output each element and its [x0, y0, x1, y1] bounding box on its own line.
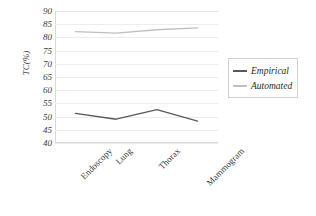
- legend-swatch-icon: [233, 85, 247, 87]
- y-axis-tick-labels: 9085807570656055504540: [14, 11, 52, 143]
- y-tick-label-70: 70: [43, 59, 52, 69]
- y-tick-label-50: 50: [43, 112, 52, 122]
- y-tick-label-65: 65: [43, 72, 52, 82]
- legend-swatch-icon: [233, 70, 247, 72]
- legend-label: Empirical: [251, 66, 289, 76]
- series-line-empirical: [75, 110, 197, 121]
- x-tick-label-lung: Lung: [114, 146, 135, 167]
- y-tick-label-55: 55: [43, 98, 52, 108]
- chart-legend: EmpiricalAutomated: [228, 58, 298, 98]
- series-lines: [55, 11, 218, 143]
- y-tick-label-40: 40: [43, 138, 52, 148]
- legend-item-automated[interactable]: Automated: [233, 78, 292, 93]
- y-tick-label-85: 85: [43, 19, 52, 29]
- x-axis-tick-labels: EndoscopyLungThoraxMammogram: [55, 146, 218, 212]
- legend-item-empirical[interactable]: Empirical: [233, 63, 292, 78]
- legend-label: Automated: [251, 81, 292, 91]
- y-tick-label-90: 90: [43, 6, 52, 16]
- x-tick-label-endoscopy: Endoscopy: [79, 146, 114, 181]
- chart-container: TC(%) 9085807570656055504540 EndoscopyLu…: [0, 0, 316, 216]
- y-tick-label-75: 75: [43, 46, 52, 56]
- x-tick-label-thorax: Thorax: [156, 146, 181, 171]
- y-tick-label-45: 45: [43, 125, 52, 135]
- y-tick-label-60: 60: [43, 85, 52, 95]
- series-line-automated: [75, 28, 197, 33]
- plot-area: [55, 11, 218, 143]
- x-tick-label-mammogram: Mammogram: [204, 146, 246, 188]
- gridline-40: [55, 143, 218, 144]
- y-tick-label-80: 80: [43, 32, 52, 42]
